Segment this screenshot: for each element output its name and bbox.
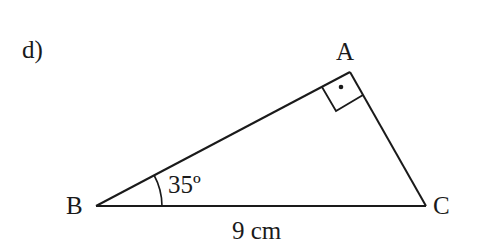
- right-angle-marker: [322, 87, 363, 111]
- vertex-label-c: C: [433, 193, 450, 218]
- vertex-label-b: B: [66, 193, 83, 218]
- side-bc-label: 9 cm: [232, 218, 281, 243]
- angle-b-label: 35º: [168, 172, 201, 197]
- side-ab: [96, 72, 350, 206]
- vertex-label-a: A: [336, 39, 354, 64]
- right-angle-dot: [339, 85, 344, 90]
- side-ac: [350, 72, 426, 206]
- angle-arc-b: [154, 175, 162, 206]
